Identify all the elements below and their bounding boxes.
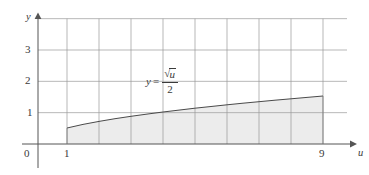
y-tick-label-3: 3	[25, 44, 31, 55]
radicand-u: u	[169, 68, 176, 81]
x-axis-arrowhead	[350, 141, 357, 148]
fraction-denominator: 2	[167, 83, 173, 95]
equation-lhs: y	[146, 76, 151, 87]
figure-container: y u 3 2 1 0 1 9 y = √ u 2	[0, 0, 369, 175]
x-tick-label-1: 1	[64, 148, 70, 159]
origin-tick-label-0: 0	[24, 148, 30, 159]
fraction-numerator: √ u	[163, 68, 177, 82]
x-tick-label-9: 9	[319, 148, 325, 159]
equation-fraction: √ u 2	[162, 68, 178, 95]
y-axis-arrowhead	[35, 13, 42, 20]
equation-equals-sign: =	[153, 76, 159, 87]
curve-equation-label: y = √ u 2	[146, 68, 178, 95]
x-axis-name: u	[358, 148, 363, 159]
y-tick-label-1: 1	[27, 107, 33, 118]
plot-svg	[0, 0, 369, 175]
y-axis-name: y	[26, 12, 31, 23]
y-tick-label-2: 2	[25, 75, 31, 86]
square-root-icon: √ u	[164, 68, 176, 81]
